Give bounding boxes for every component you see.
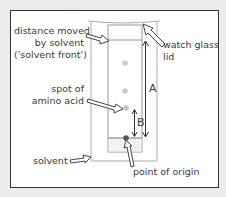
lid-label-line2: lid [163, 51, 219, 63]
watch-glass-lid [88, 21, 160, 23]
spot-label-line1: spot of [14, 83, 84, 95]
lid-arrow-icon [143, 24, 165, 47]
spot-label-line2: amino acid [14, 95, 84, 107]
distance-a-label: A [149, 83, 157, 95]
origin-label: point of origin [133, 166, 199, 178]
solvent-arrow-icon [70, 155, 91, 163]
amino-acid-spot-top [122, 60, 128, 66]
distance-b-label: B [137, 117, 145, 129]
solvent-front-label-line1: distance moved [14, 25, 84, 37]
solvent-front-label-line2: by solvent [14, 37, 84, 49]
solvent-front-label: distance moved by solvent ('solvent fron… [14, 25, 84, 61]
solvent-front-label-line3: ('solvent front') [14, 49, 84, 61]
solvent-label: solvent [33, 155, 68, 167]
lid-label: watch glass lid [163, 39, 219, 63]
lid-label-line1: watch glass [163, 39, 219, 51]
spot-label: spot of amino acid [14, 83, 84, 107]
amino-acid-spot [123, 105, 129, 111]
amino-acid-spot-middle [122, 88, 128, 94]
